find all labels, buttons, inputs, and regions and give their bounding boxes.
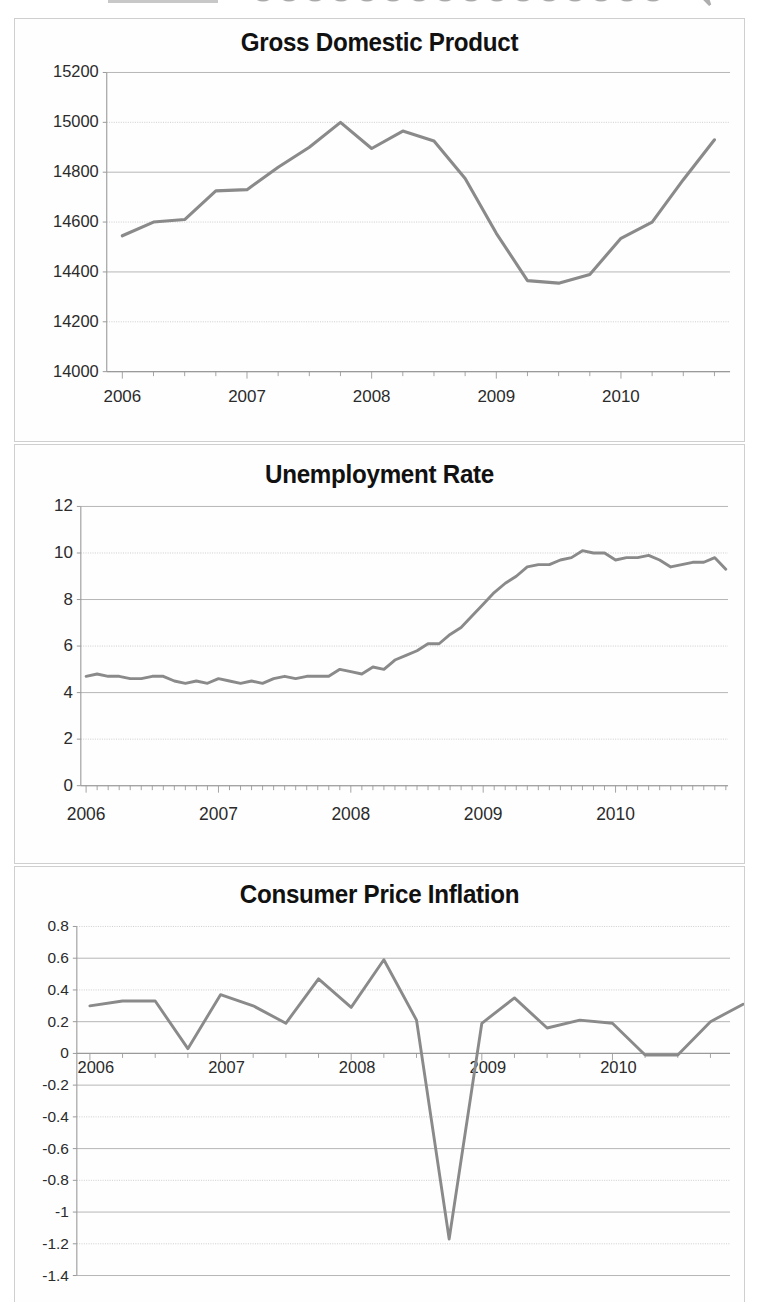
x-axis-tick-label: 2010 (596, 804, 635, 824)
y-axis-tick-label: 0 (63, 776, 72, 795)
data-series-line (86, 551, 726, 684)
x-axis-tick-label: 2006 (67, 804, 106, 824)
y-axis-tick-label: -1.4 (42, 1267, 69, 1284)
y-axis-tick-label: 2 (63, 729, 72, 748)
x-axis-tick-label: 2008 (331, 804, 370, 824)
x-axis-tick-label: 2010 (600, 1058, 637, 1076)
y-axis-tick-label: 10 (54, 543, 73, 562)
x-axis-tick-label: 2007 (208, 1058, 245, 1076)
x-axis-tick-label: 2006 (103, 387, 141, 406)
y-axis-tick-label: 14600 (53, 212, 99, 230)
chart-title-unemployment: Unemployment Rate (41, 445, 719, 490)
y-axis-tick-label: 14400 (53, 262, 99, 280)
chart-svg-gross-domestic-product: 1400014200144001460014800150001520020062… (15, 58, 744, 430)
chart-title-gdp: Gross Domestic Product (41, 19, 719, 58)
y-axis-tick-label: 14200 (53, 312, 99, 330)
y-axis-tick-label: -0.6 (42, 1140, 69, 1157)
y-axis-tick-label: 12 (54, 496, 73, 515)
x-axis-tick-label: 2009 (464, 804, 503, 824)
y-axis-tick-label: -0.2 (42, 1076, 69, 1093)
plot-area-unemployment: 02468101220062007200820092010 (15, 490, 744, 848)
x-axis-tick-label: 2010 (602, 387, 640, 406)
scan-artifact-strip (0, 0, 759, 20)
y-axis-tick-label: 14800 (53, 162, 99, 180)
y-axis-tick-label: 14000 (53, 362, 99, 380)
y-axis-tick-label: -0.4 (42, 1108, 69, 1125)
x-axis-tick-label: 2008 (339, 1058, 376, 1076)
plot-area-cpi: -1.4-1.2-1-0.8-0.6-0.4-0.200.20.40.60.82… (15, 910, 744, 1296)
x-axis-tick-label: 2006 (78, 1058, 115, 1076)
y-axis-tick-label: 0.6 (47, 949, 68, 966)
y-axis-tick-label: -1.2 (42, 1235, 69, 1252)
chart-title-cpi: Consumer Price Inflation (41, 867, 719, 910)
x-axis-tick-label: 2009 (477, 387, 515, 406)
x-axis-tick-label: 2007 (199, 804, 238, 824)
y-axis-tick-label: 4 (63, 683, 72, 702)
x-axis-tick-label: 2008 (353, 387, 391, 406)
chart-panel-cpi: Consumer Price Inflation -1.4-1.2-1-0.8-… (14, 866, 745, 1302)
chart-svg-consumer-price-inflation: -1.4-1.2-1-0.8-0.6-0.4-0.200.20.40.60.82… (15, 910, 744, 1296)
y-axis-tick-label: 0.2 (47, 1013, 68, 1030)
y-axis-tick-label: 0.8 (47, 917, 68, 934)
y-axis-tick-label: 0.4 (47, 981, 69, 998)
chart-panel-unemployment: Unemployment Rate 0246810122006200720082… (14, 444, 745, 864)
y-axis-tick-label: 0 (60, 1044, 69, 1061)
y-axis-tick-label: 15000 (53, 112, 99, 130)
y-axis-tick-label: -0.8 (42, 1171, 69, 1188)
y-axis-tick-label: 15200 (53, 62, 99, 80)
y-axis-tick-label: -1 (55, 1203, 69, 1220)
data-series-line (122, 122, 714, 283)
x-axis-tick-label: 2007 (228, 387, 266, 406)
chart-svg-unemployment-rate: 02468101220062007200820092010 (15, 490, 744, 848)
y-axis-tick-label: 6 (63, 636, 72, 655)
plot-area-gdp: 1400014200144001460014800150001520020062… (15, 58, 744, 430)
chart-panel-gdp: Gross Domestic Product 14000142001440014… (14, 18, 745, 442)
data-series-line (90, 960, 743, 1239)
y-axis-tick-label: 8 (63, 590, 72, 609)
